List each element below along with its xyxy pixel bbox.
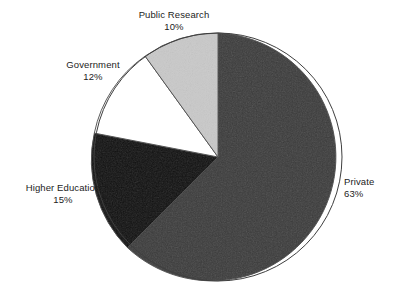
pie-label-public-research-name: Public Research bbox=[113, 9, 235, 21]
pie-label-private: Private 63% bbox=[344, 176, 400, 200]
pie-label-public-research: Public Research 10% bbox=[113, 9, 235, 33]
pie-label-government-name: Government bbox=[41, 59, 145, 71]
pie-label-higher-education-name: Higher Education bbox=[4, 182, 122, 194]
pie-chart-canvas bbox=[0, 0, 403, 296]
pie-label-private-name: Private bbox=[344, 176, 400, 188]
pie-label-government: Government 12% bbox=[41, 59, 145, 83]
pie-label-higher-education-percent: 15% bbox=[4, 194, 122, 206]
pie-label-public-research-percent: 10% bbox=[113, 21, 235, 33]
pie-chart-figure: Public Research 10% Government 12% Highe… bbox=[0, 0, 403, 296]
pie-label-private-percent: 63% bbox=[344, 188, 400, 200]
pie-label-higher-education: Higher Education 15% bbox=[4, 182, 122, 206]
pie-label-government-percent: 12% bbox=[41, 71, 145, 83]
